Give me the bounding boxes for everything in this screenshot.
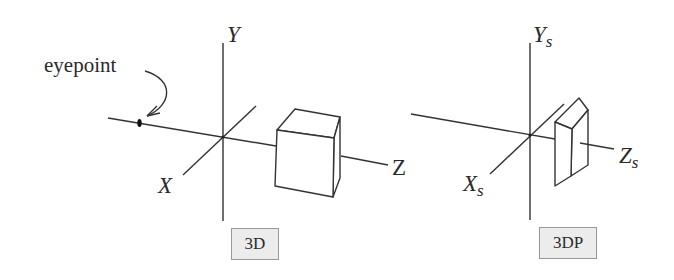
origin-point [528, 133, 531, 136]
x-axis-label: X [158, 174, 172, 197]
eyepoint-label: eyepoint [44, 55, 116, 76]
arrowhead-icon [147, 106, 160, 116]
tag-3dp: 3DP [539, 227, 597, 259]
zs-axis-label: Zs [619, 144, 638, 171]
eyepoint-marker [137, 119, 141, 127]
ys-axis-label: Ys [533, 23, 552, 50]
left-3d-scene [108, 43, 388, 221]
origin-point [221, 135, 224, 138]
xs-axis-label: Xs [463, 172, 484, 199]
eyepoint-arrow-icon [145, 71, 167, 116]
right-3dp-scene [411, 43, 614, 220]
tag-3d: 3D [231, 228, 279, 260]
y-axis-label: Y [227, 23, 240, 46]
z-axis-exit [341, 156, 388, 165]
z-axis [108, 118, 276, 146]
z-axis-label: Z [392, 156, 406, 179]
projected-cube [555, 98, 588, 186]
cube [275, 109, 340, 197]
zs-axis [411, 114, 555, 139]
